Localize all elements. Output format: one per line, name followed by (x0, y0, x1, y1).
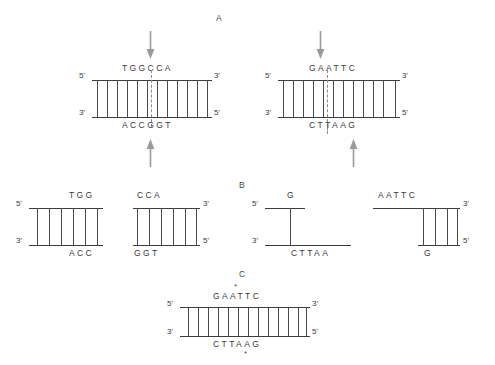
backbone-top-c (180, 307, 310, 308)
base-pair-rung (107, 80, 108, 117)
base-pair-rung (343, 80, 344, 117)
base-pair-rung (248, 307, 249, 336)
base-pair-rung (293, 80, 294, 117)
base-pair-rung (177, 80, 178, 117)
down-arrow-icon-a-right (315, 31, 326, 59)
base-pair-rung (157, 80, 158, 117)
base-pair-rung (73, 208, 74, 245)
end-label-a-left-bottom-right: 5' (214, 108, 220, 117)
base-pair-rung (373, 80, 374, 117)
base-pair-rung (149, 208, 150, 245)
base-pair-rung (268, 307, 269, 336)
sequence-top-b4: AATTC (378, 190, 417, 200)
end-label-b4-bottom-right: 5' (463, 236, 469, 245)
base-pair-rung (423, 208, 424, 245)
base-pair-rung (383, 80, 384, 117)
base-pair-rung (353, 80, 354, 117)
end-label-b3-bottom-left: 3' (252, 236, 258, 245)
base-pair-rung (187, 80, 188, 117)
sequence-bottom-b1: ACC (69, 248, 94, 258)
cut-line-a-left (151, 70, 152, 127)
base-pair-rung (395, 80, 396, 117)
base-pair-rung (137, 208, 138, 245)
backbone-top-a-right (278, 80, 400, 81)
base-pair-rung (197, 80, 198, 117)
backbone-bottom-b4 (418, 245, 460, 246)
sequence-bottom-b3: CTTAA (291, 248, 330, 258)
base-pair-rung (188, 307, 189, 336)
base-pair-rung (173, 208, 174, 245)
base-pair-rung (290, 208, 291, 245)
base-pair-rung (37, 208, 38, 245)
base-pair-rung (117, 80, 118, 117)
sequence-top-b2: CCA (137, 190, 162, 200)
section-label-b: B (239, 180, 245, 190)
end-label-a-left-top-right: 3' (214, 71, 220, 80)
end-label-a-left-top-left: 5' (79, 71, 85, 80)
end-label-b4-top-right: 3' (463, 199, 469, 208)
base-pair-rung (97, 208, 98, 245)
base-pair-rung (306, 307, 307, 336)
backbone-top-b3 (265, 208, 305, 209)
base-pair-rung (49, 208, 50, 245)
end-label-a-left-bottom-left: 3' (79, 108, 85, 117)
end-label-a-right-top-left: 5' (265, 71, 271, 80)
section-label-c: C (239, 269, 246, 279)
backbone-bottom-b3 (265, 245, 351, 246)
end-label-b2-bottom-right: 5' (203, 236, 209, 245)
sequence-bottom-c: CTTAAG (213, 339, 261, 349)
base-pair-rung (85, 208, 86, 245)
backbone-top-a-left (92, 80, 212, 81)
base-pair-rung (447, 208, 448, 245)
end-label-b3-top-left: 5' (252, 199, 258, 208)
sequence-top-a-left: TGGCCA (122, 63, 173, 73)
base-pair-rung (278, 307, 279, 336)
base-pair-rung (283, 80, 284, 117)
base-pair-rung (196, 208, 197, 245)
backbone-bottom-a-left (92, 117, 212, 118)
base-pair-rung (363, 80, 364, 117)
end-label-a-right-top-right: 3' (402, 71, 408, 80)
end-label-b2-top-right: 3' (203, 199, 209, 208)
base-pair-rung (298, 307, 299, 336)
end-label-a-right-bottom-right: 5' (402, 108, 408, 117)
base-pair-rung (207, 80, 208, 117)
up-arrow-icon-a-left (145, 139, 156, 167)
section-label-a: A (216, 13, 222, 23)
base-pair-rung (218, 307, 219, 336)
base-pair-rung (258, 307, 259, 336)
sequence-top-b3: G (287, 190, 296, 200)
sequence-top-b1: TGG (69, 190, 95, 200)
sequence-top-a-right: GAATTC (309, 63, 357, 73)
backbone-bottom-b2 (133, 245, 200, 246)
base-pair-rung (288, 307, 289, 336)
base-pair-rung (147, 80, 148, 117)
end-label-a-right-bottom-left: 3' (265, 108, 271, 117)
base-pair-rung (97, 80, 98, 117)
base-pair-rung (457, 208, 458, 245)
base-pair-rung (313, 80, 314, 117)
base-pair-rung (333, 80, 334, 117)
base-pair-rung (435, 208, 436, 245)
sequence-bottom-a-left: ACCGGT (122, 120, 173, 130)
backbone-top-b2 (133, 208, 200, 209)
sequence-bottom-b2: GGT (134, 248, 160, 258)
down-arrow-icon-a-left (145, 31, 156, 59)
end-label-c-top-left: 5' (167, 299, 173, 308)
end-label-c-bottom-right: 5' (312, 327, 318, 336)
base-pair-rung (61, 208, 62, 245)
base-pair-rung (198, 307, 199, 336)
backbone-bottom-b1 (29, 245, 103, 246)
base-pair-rung (185, 208, 186, 245)
base-pair-rung (208, 307, 209, 336)
base-pair-rung (323, 80, 324, 117)
end-label-c-top-right: 3' (312, 299, 318, 308)
asterisk-bottom-c: * (244, 350, 247, 358)
asterisk-top-c: * (234, 283, 237, 291)
up-arrow-icon-a-right (348, 139, 359, 167)
end-label-b1-top-left: 5' (16, 199, 22, 208)
cut-line-a-right-top (327, 70, 328, 122)
end-label-c-bottom-left: 3' (167, 327, 173, 336)
end-label-b1-bottom-left: 3' (16, 236, 22, 245)
backbone-bottom-a-right (278, 117, 400, 118)
